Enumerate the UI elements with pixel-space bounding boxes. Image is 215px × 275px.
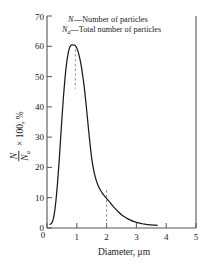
y-axis-tail: × 100, %: [15, 111, 25, 146]
y-axis-ticks: [47, 16, 52, 228]
distribution-curve: [50, 45, 157, 226]
legend-label: —Number of particles: [73, 15, 148, 24]
annotations: [75, 49, 106, 228]
y-tick-label: 50: [35, 72, 45, 82]
y-tick-label: 70: [35, 12, 45, 22]
y-tick-labels: 0 10 20 30 40 50 60 70: [35, 12, 45, 234]
x-tick-label: 0: [41, 230, 46, 240]
y-tick-label: 20: [35, 162, 45, 172]
y-tick-label: 60: [35, 41, 45, 51]
legend-label: —Total number of particles: [70, 25, 162, 34]
legend: N —Number of particles N a —Total number…: [61, 15, 161, 35]
x-tick-label: 3: [134, 232, 139, 242]
y-axis-title: N N a × 100, %: [9, 111, 31, 162]
x-tick-label: 5: [194, 232, 199, 242]
y-tick-label: 10: [35, 193, 45, 203]
x-tick-label: 4: [164, 232, 169, 242]
chart-figure: 0 10 20 30 40 50 60 70 0 1 2 3 4 5: [0, 0, 215, 275]
y-axis-numerator: N: [9, 152, 19, 160]
legend-symbol: N: [67, 15, 74, 24]
y-tick-label: 40: [35, 102, 45, 112]
chart-svg: 0 10 20 30 40 50 60 70 0 1 2 3 4 5: [0, 0, 215, 275]
y-axis-denominator-sub: a: [24, 151, 31, 154]
legend-item-1: N a —Total number of particles: [61, 25, 161, 35]
y-tick-label: 30: [35, 132, 45, 142]
legend-item-0: N —Number of particles: [67, 15, 148, 24]
x-axis-title: Diameter, μm: [98, 247, 151, 257]
x-axis-ticks: [47, 223, 196, 228]
x-tick-label: 1: [75, 232, 80, 242]
x-tick-labels: 0 1 2 3 4 5: [41, 230, 199, 242]
x-tick-label: 2: [104, 232, 109, 242]
